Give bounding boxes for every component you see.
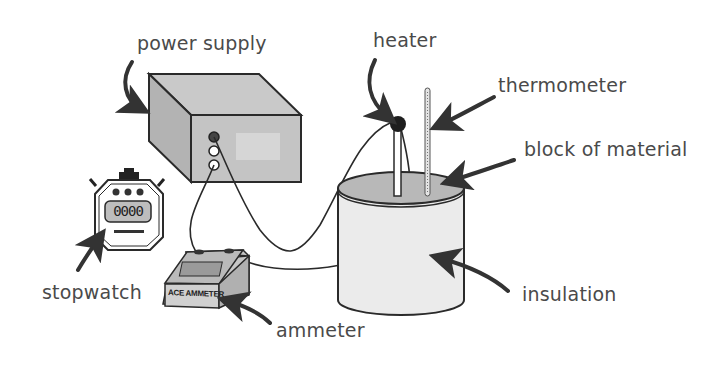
label-thermometer: thermometer: [498, 76, 626, 95]
stopwatch-display-text: 0000: [107, 203, 149, 219]
ammeter-brand-text: ACE AMMETER: [168, 288, 224, 299]
label-stopwatch: stopwatch: [42, 283, 142, 302]
power-supply-icon: [149, 74, 301, 182]
label-heater: heater: [373, 31, 437, 50]
ammeter-icon: [163, 249, 249, 309]
label-block-of-material: block of material: [524, 140, 688, 159]
experiment-diagram: power supply heater thermometer block of…: [0, 0, 723, 365]
label-insulation: insulation: [522, 285, 617, 304]
thermometer-icon: [425, 88, 430, 196]
apparatus-artwork: [0, 0, 723, 365]
label-ammeter: ammeter: [276, 321, 365, 340]
label-power-supply: power supply: [137, 34, 267, 53]
